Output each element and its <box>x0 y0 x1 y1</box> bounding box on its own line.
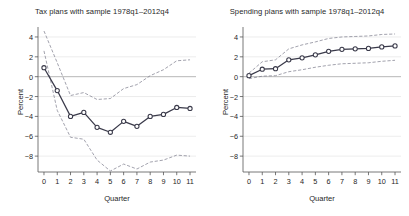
x-tick-label-0: 0 <box>42 177 46 186</box>
series-lower-confidence-band <box>44 51 190 171</box>
series-upper-confidence-band <box>44 31 190 100</box>
x-tick-label-1: 1 <box>260 177 264 186</box>
y-tick-label--6: −6 <box>25 132 33 141</box>
x-tick-label-8: 8 <box>148 177 152 186</box>
y-tick-label-0: 0 <box>234 72 238 81</box>
x-tick-label-7: 7 <box>135 177 139 186</box>
data-point-marker <box>366 46 370 50</box>
x-tick-label-6: 6 <box>122 177 126 186</box>
data-point-marker <box>68 114 72 118</box>
chart-panel-tax: Tax plans with sample 1978q1–2012q4 420−… <box>0 0 204 216</box>
y-tick-label--2: −2 <box>230 92 238 101</box>
data-point-marker <box>287 58 291 62</box>
x-tick-label-10: 10 <box>173 177 181 186</box>
y-tick-label-0: 0 <box>29 72 33 81</box>
x-tick-label-8: 8 <box>353 177 357 186</box>
x-tick-label-9: 9 <box>366 177 370 186</box>
x-tick-label-9: 9 <box>161 177 165 186</box>
x-tick-label-11: 11 <box>391 177 399 186</box>
y-tick-label-4: 4 <box>29 32 33 41</box>
y-tick-label--8: −8 <box>25 152 33 161</box>
y-axis-title: Percent <box>16 88 25 114</box>
data-point-marker <box>188 106 192 110</box>
x-tick-label-7: 7 <box>340 177 344 186</box>
data-point-marker <box>247 74 251 78</box>
x-tick-label-0: 0 <box>247 177 251 186</box>
data-point-marker <box>55 88 59 92</box>
data-point-marker <box>108 130 112 134</box>
x-tick-label-5: 5 <box>108 177 112 186</box>
data-point-marker <box>135 124 139 128</box>
data-point-marker <box>42 66 46 70</box>
y-tick-label--4: −4 <box>230 112 238 121</box>
data-point-marker <box>175 105 179 109</box>
x-tick-label-2: 2 <box>273 177 277 186</box>
x-tick-label-3: 3 <box>82 177 86 186</box>
y-tick-label-4: 4 <box>234 32 238 41</box>
x-axis-title: Quarter <box>309 194 335 203</box>
x-tick-label-1: 1 <box>55 177 59 186</box>
chart-panel-spending: Spending plans with sample 1978q1–2012q4… <box>205 0 409 216</box>
x-tick-label-4: 4 <box>300 177 304 186</box>
data-point-marker <box>300 56 304 60</box>
x-axis-title: Quarter <box>104 194 130 203</box>
y-axis-title: Percent <box>221 88 230 114</box>
plot-area-tax: 420−2−4−6−801234567891011QuarterPercent <box>0 0 204 216</box>
x-tick-label-5: 5 <box>313 177 317 186</box>
data-point-marker <box>260 67 264 71</box>
x-tick-label-3: 3 <box>287 177 291 186</box>
y-tick-label--6: −6 <box>230 132 238 141</box>
data-point-marker <box>95 125 99 129</box>
data-point-marker <box>273 67 277 71</box>
data-point-marker <box>353 47 357 51</box>
data-point-marker <box>393 44 397 48</box>
x-tick-label-6: 6 <box>327 177 331 186</box>
data-point-marker <box>122 119 126 123</box>
data-point-marker <box>82 110 86 114</box>
data-point-marker <box>340 47 344 51</box>
y-tick-label--2: −2 <box>25 92 33 101</box>
data-point-marker <box>327 49 331 53</box>
y-tick-label--4: −4 <box>25 112 33 121</box>
data-point-marker <box>380 45 384 49</box>
x-tick-label-11: 11 <box>186 177 194 186</box>
figure-canvas: Tax plans with sample 1978q1–2012q4 420−… <box>0 0 409 216</box>
y-tick-label-2: 2 <box>29 52 33 61</box>
x-tick-label-4: 4 <box>95 177 99 186</box>
series-point-estimate-line <box>44 68 190 133</box>
plot-area-spending: 420−2−4−6−801234567891011QuarterPercent <box>205 0 409 216</box>
y-tick-label--8: −8 <box>230 152 238 161</box>
y-tick-label-2: 2 <box>234 52 238 61</box>
data-point-marker <box>313 53 317 57</box>
x-tick-label-10: 10 <box>378 177 386 186</box>
data-point-marker <box>148 114 152 118</box>
x-tick-label-2: 2 <box>68 177 72 186</box>
data-point-marker <box>161 112 165 116</box>
